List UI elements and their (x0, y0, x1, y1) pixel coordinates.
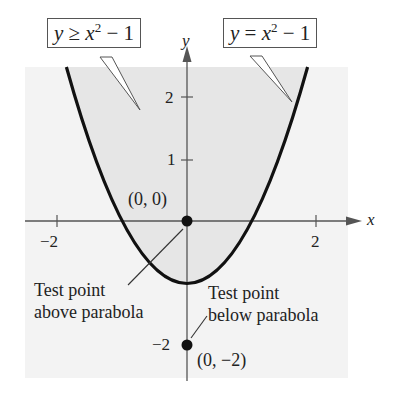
x-tick-label-neg2: −2 (40, 233, 58, 250)
callout-inequality-x: x (85, 21, 94, 45)
callout-boundary-x: x (262, 21, 271, 45)
annotation-above-line2: above parabola (34, 301, 143, 323)
point-label-below: (0, −2) (197, 351, 246, 369)
callout-inequality: y ≥ x2 − 1 (47, 18, 141, 48)
annotation-above: Test point above parabola (34, 279, 143, 323)
callout-boundary-tail: − 1 (278, 21, 311, 45)
y-tick-label-2: 2 (165, 89, 174, 106)
x-tick-label-2: 2 (311, 233, 320, 250)
graph-canvas (0, 0, 397, 395)
test-point-origin (182, 216, 193, 227)
test-point-below (182, 340, 193, 351)
callout-inequality-relation: ≥ (69, 21, 81, 45)
callout-inequality-y: y (54, 21, 63, 45)
annotation-above-line1: Test point (34, 279, 143, 301)
callout-inequality-tail: − 1 (101, 21, 134, 45)
y-tick-label-1: 1 (167, 151, 176, 168)
callout-boundary-y: y (230, 21, 239, 45)
annotation-below: Test point below parabola (208, 282, 318, 326)
annotation-below-line2: below parabola (208, 304, 318, 326)
point-label-origin: (0, 0) (128, 190, 167, 208)
y-tick-label-neg2: −2 (152, 336, 170, 353)
callout-boundary: y = x2 − 1 (223, 18, 317, 48)
callout-boundary-relation: = (245, 21, 257, 45)
x-axis-label: x (367, 211, 375, 228)
annotation-below-line1: Test point (208, 282, 318, 304)
inequality-graph: y ≥ x2 − 1 y = x2 − 1 y x −2 2 2 1 −2 (0… (0, 0, 397, 395)
y-axis-label: y (182, 32, 190, 49)
x-axis-arrow-icon (346, 217, 362, 226)
